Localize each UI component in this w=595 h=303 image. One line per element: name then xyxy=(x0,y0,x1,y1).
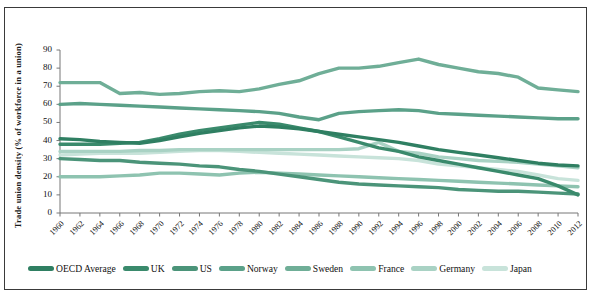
series-line-norway xyxy=(60,103,578,119)
series-line-sweden xyxy=(60,59,578,94)
legend-label: Germany xyxy=(439,263,475,274)
legend-label: France xyxy=(378,263,404,274)
legend-item-norway[interactable]: Norway xyxy=(219,263,278,274)
legend-swatch-icon xyxy=(411,266,437,271)
legend-item-uk[interactable]: UK xyxy=(123,263,165,274)
y-tick-label: 30 xyxy=(30,153,52,163)
y-tick-label: 40 xyxy=(30,135,52,145)
legend-swatch-icon xyxy=(350,266,376,271)
y-tick-label: 60 xyxy=(30,98,52,108)
y-tick-label: 80 xyxy=(30,62,52,72)
legend-swatch-icon xyxy=(172,266,198,271)
y-tick-label: 10 xyxy=(30,189,52,199)
legend-swatch-icon xyxy=(285,266,311,271)
legend-item-germany[interactable]: Germany xyxy=(411,263,475,274)
legend-item-sweden[interactable]: Sweden xyxy=(285,263,343,274)
legend-swatch-icon xyxy=(123,266,149,271)
chart-legend: OECD AverageUKUSNorwaySwedenFranceGerman… xyxy=(28,258,573,278)
y-tick-label: 50 xyxy=(30,116,52,126)
legend-swatch-icon xyxy=(219,266,245,271)
y-tick-label: 70 xyxy=(30,80,52,90)
legend-label: Sweden xyxy=(313,263,343,274)
legend-item-us[interactable]: US xyxy=(172,263,212,274)
legend-label: OECD Average xyxy=(56,263,116,274)
y-tick-label: 20 xyxy=(30,171,52,181)
legend-item-japan[interactable]: Japan xyxy=(482,263,532,274)
y-tick-label: 0 xyxy=(30,207,52,217)
legend-swatch-icon xyxy=(482,266,508,271)
y-tick-label: 90 xyxy=(30,44,52,54)
legend-label: UK xyxy=(151,263,165,274)
legend-label: US xyxy=(200,263,212,274)
legend-item-oecd-average[interactable]: OECD Average xyxy=(28,263,116,274)
legend-swatch-icon xyxy=(28,266,54,271)
legend-label: Japan xyxy=(510,263,532,274)
legend-item-france[interactable]: France xyxy=(350,263,404,274)
legend-label: Norway xyxy=(247,263,278,274)
